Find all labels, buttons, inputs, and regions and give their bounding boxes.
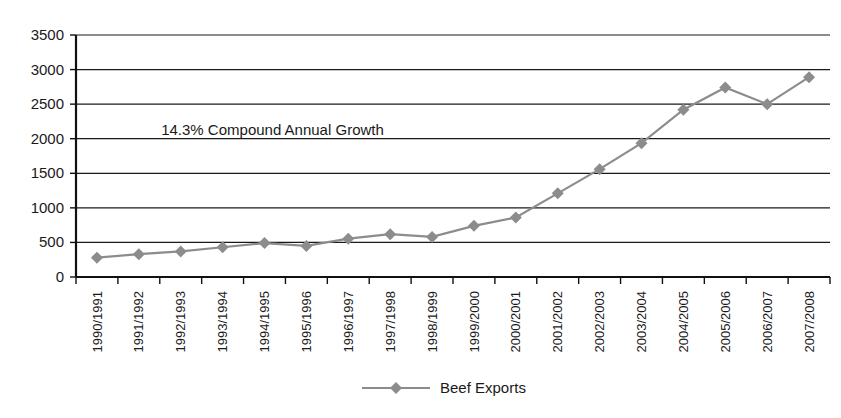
line-chart: 0500100015002000250030003500 1990/199119… <box>0 0 841 418</box>
y-tick-label: 1000 <box>31 199 64 216</box>
x-tick-label: 1997/1998 <box>383 291 398 352</box>
data-point-marker <box>803 71 815 83</box>
x-tick-label: 1999/2000 <box>466 291 481 352</box>
data-point-marker <box>175 245 187 257</box>
x-tick-label: 1991/1992 <box>131 291 146 352</box>
data-point-marker <box>761 98 773 110</box>
chart-container: 0500100015002000250030003500 1990/199119… <box>0 0 841 418</box>
data-series <box>91 71 815 263</box>
x-tick-label: 2000/2001 <box>508 291 523 352</box>
x-tick-label: 2005/2006 <box>718 291 733 352</box>
y-tick-label: 2000 <box>31 130 64 147</box>
data-point-marker <box>259 237 271 249</box>
data-point-marker <box>719 82 731 94</box>
data-point-marker <box>552 187 564 199</box>
x-tick-label: 1990/1991 <box>89 291 104 352</box>
data-point-marker <box>468 220 480 232</box>
x-tick-label: 2006/2007 <box>760 291 775 352</box>
y-tick-label: 3500 <box>31 26 64 43</box>
y-tick-label: 0 <box>56 268 64 285</box>
x-tick-label: 2002/2003 <box>592 291 607 352</box>
y-tick-label: 500 <box>39 233 64 250</box>
x-tick-label: 1994/1995 <box>257 291 272 352</box>
data-point-marker <box>426 231 438 243</box>
data-point-marker <box>300 240 312 252</box>
data-point-marker <box>510 212 522 224</box>
y-axis-labels: 0500100015002000250030003500 <box>31 26 64 285</box>
data-point-marker <box>384 228 396 240</box>
x-tick-label: 2004/2005 <box>676 291 691 352</box>
legend-label-beef-exports: Beef Exports <box>440 379 526 396</box>
x-tick-label: 1995/1996 <box>299 291 314 352</box>
x-tick-label: 1992/1993 <box>173 291 188 352</box>
x-axis-labels: 1990/19911991/19921992/19931993/19941994… <box>89 291 816 352</box>
y-tick-label: 1500 <box>31 164 64 181</box>
x-tick-label: 1993/1994 <box>215 291 230 352</box>
x-tick-label: 1996/1997 <box>341 291 356 352</box>
growth-annotation-label: 14.3% Compound Annual Growth <box>161 121 384 138</box>
chart-legend: Beef Exports <box>362 379 526 396</box>
x-tick-label: 2007/2008 <box>802 291 817 352</box>
legend-diamond-marker <box>390 382 402 394</box>
gridlines <box>76 35 830 242</box>
x-tick-label: 1998/1999 <box>425 291 440 352</box>
x-tick-label: 2001/2002 <box>550 291 565 352</box>
y-tick-label: 2500 <box>31 95 64 112</box>
data-point-marker <box>91 252 103 264</box>
data-point-marker <box>133 248 145 260</box>
x-tick-label: 2003/2004 <box>634 291 649 352</box>
data-point-marker <box>217 241 229 253</box>
y-tick-label: 3000 <box>31 61 64 78</box>
